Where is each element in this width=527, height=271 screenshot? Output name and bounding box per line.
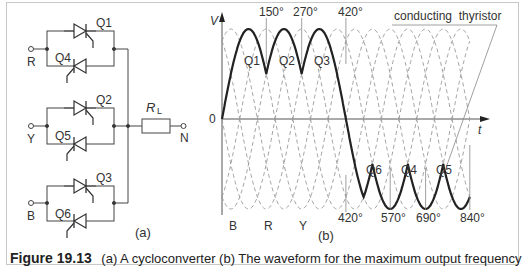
- figure-caption: Figure 19.13 (a) A cycloconverter (b) Th…: [10, 250, 522, 266]
- thyristor-q2: [64, 101, 96, 125]
- label-q6: Q6: [55, 207, 71, 221]
- load-label: R: [146, 100, 155, 115]
- sublabel-a: (a): [135, 225, 151, 240]
- angle-420-top: 420°: [338, 5, 363, 19]
- segment-q2: Q2: [279, 54, 295, 68]
- segment-q3: Q3: [314, 54, 330, 68]
- angle-690: 690°: [416, 211, 441, 225]
- load-subscript: L: [157, 106, 162, 116]
- phase-label-r: R: [264, 219, 273, 233]
- conducting-thyristor-label: conducting thyristor: [394, 9, 501, 23]
- load-resistor: [142, 119, 170, 133]
- thyristor-pair-y: [29, 108, 116, 144]
- origin-label: 0: [209, 112, 216, 126]
- angle-150: 150°: [259, 5, 284, 19]
- waveform-plot: [219, 12, 497, 215]
- phase-label-y: Y: [299, 219, 307, 233]
- angle-570: 570°: [381, 211, 406, 225]
- sublabel-b: (b): [318, 228, 334, 243]
- v-axis-arrow: [219, 12, 225, 22]
- figure-canvas: Q1 Q4 Q2 Q5 Q3 Q6 R Y B R L N (a) V: [0, 0, 527, 271]
- segment-q1: Q1: [244, 54, 260, 68]
- segment-q6: Q6: [366, 163, 382, 177]
- output-n: N: [180, 131, 189, 145]
- label-q3: Q3: [96, 171, 112, 185]
- angle-840: 840°: [460, 211, 485, 225]
- label-q2: Q2: [96, 93, 112, 107]
- thyristor-q3: [64, 179, 96, 203]
- thyristor-q1: [64, 24, 96, 48]
- segment-q4: Q4: [401, 163, 417, 177]
- angle-270: 270°: [293, 5, 318, 19]
- angle-420-bottom: 420°: [338, 211, 363, 225]
- thyristor-pair-b: [29, 49, 129, 221]
- figure-number: Figure 19.13: [10, 250, 92, 266]
- v-axis-label: V: [210, 14, 219, 28]
- figure-caption-text: (a) A cycloconverter (b) The waveform fo…: [101, 251, 521, 266]
- segment-q5: Q5: [436, 163, 452, 177]
- label-q4: Q4: [55, 51, 71, 65]
- label-q5: Q5: [55, 129, 71, 143]
- input-r: R: [27, 55, 36, 69]
- label-q1: Q1: [96, 16, 112, 30]
- input-b: B: [27, 209, 35, 223]
- t-axis-label: t: [478, 123, 482, 137]
- cycloconverter-circuit: [29, 31, 187, 221]
- phase-label-b: B: [229, 219, 237, 233]
- t-axis-arrow: [480, 116, 490, 122]
- input-y: Y: [27, 132, 35, 146]
- thyristor-pair-r: [29, 31, 129, 66]
